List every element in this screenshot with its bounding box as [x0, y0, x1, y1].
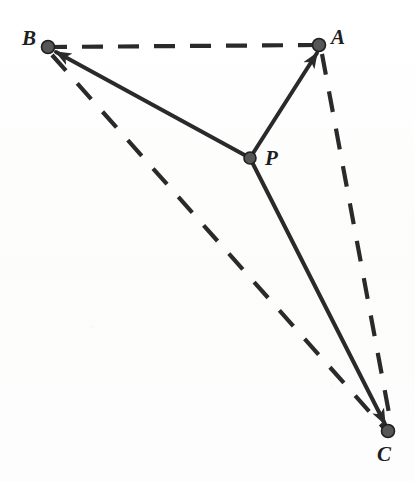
geometry-figure: B A P C [0, 0, 415, 481]
vertex-label-b: B [22, 28, 36, 49]
dashed-edges [48, 45, 391, 428]
vertex-marker-b [42, 41, 55, 54]
figure-canvas [0, 0, 415, 481]
vertex-marker-c [382, 425, 395, 438]
vertex-marker-a [313, 39, 326, 52]
vertex-label-c: C [377, 444, 391, 465]
vertex-label-p: P [265, 148, 278, 169]
segment-a-to-b [48, 45, 319, 47]
segment-p-to-b [56, 52, 250, 158]
vertex-marker-p [244, 152, 256, 164]
vertex-label-a: A [331, 27, 345, 48]
segment-p-to-a [250, 53, 317, 158]
solid-edges [56, 52, 385, 424]
